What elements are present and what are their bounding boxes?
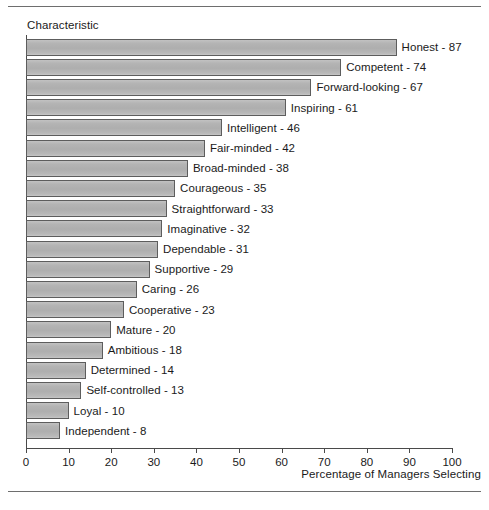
bar xyxy=(26,79,311,96)
bar xyxy=(26,422,60,439)
bar xyxy=(26,39,397,56)
bar xyxy=(26,261,150,278)
bar-row: Mature - 20 xyxy=(26,321,452,338)
bar-row: Intelligent - 46 xyxy=(26,119,452,136)
bar-row: Imaginative - 32 xyxy=(26,220,452,237)
bar-row: Ambitious - 18 xyxy=(26,342,452,359)
x-axis-tick xyxy=(196,448,197,453)
bar-value-label: Courageous - 35 xyxy=(180,182,266,194)
x-axis-tick-label: 80 xyxy=(360,456,373,468)
bar-row: Caring - 26 xyxy=(26,281,452,298)
bar xyxy=(26,99,286,116)
x-axis-tick-label: 100 xyxy=(442,456,461,468)
bar-value-label: Honest - 87 xyxy=(402,41,462,53)
bar xyxy=(26,220,162,237)
x-axis-tick xyxy=(324,448,325,453)
bar xyxy=(26,59,341,76)
x-axis-tick xyxy=(69,448,70,453)
bar xyxy=(26,241,158,258)
bar-value-label: Supportive - 29 xyxy=(155,263,234,275)
bar-row: Determined - 14 xyxy=(26,362,452,379)
bar xyxy=(26,160,188,177)
bar-chart-plot-area: Honest - 87Competent - 74Forward-looking… xyxy=(26,35,452,448)
bar-row: Competent - 74 xyxy=(26,59,452,76)
bar xyxy=(26,382,81,399)
bar-row: Cooperative - 23 xyxy=(26,301,452,318)
bar xyxy=(26,281,137,298)
bar-row: Dependable - 31 xyxy=(26,241,452,258)
x-axis-tick xyxy=(282,448,283,453)
bar xyxy=(26,200,167,217)
bar-row: Straightforward - 33 xyxy=(26,200,452,217)
x-axis-tick xyxy=(452,448,453,453)
bar-row: Honest - 87 xyxy=(26,39,452,56)
bar-value-label: Intelligent - 46 xyxy=(227,122,300,134)
bar-value-label: Dependable - 31 xyxy=(163,243,249,255)
bar xyxy=(26,342,103,359)
bar-value-label: Independent - 8 xyxy=(65,425,146,437)
bar-row: Inspiring - 61 xyxy=(26,99,452,116)
cropped-caption-text xyxy=(10,497,480,508)
x-axis-tick-label: 30 xyxy=(147,456,160,468)
bar-value-label: Imaginative - 32 xyxy=(167,223,250,235)
x-axis-tick-label: 70 xyxy=(318,456,331,468)
bottom-horizontal-rule xyxy=(8,491,481,492)
bar xyxy=(26,362,86,379)
bar-value-label: Inspiring - 61 xyxy=(291,102,358,114)
top-horizontal-rule xyxy=(8,6,481,7)
bar-value-label: Mature - 20 xyxy=(116,324,175,336)
bar-row: Self-controlled - 13 xyxy=(26,382,452,399)
x-axis-tick-label: 40 xyxy=(190,456,203,468)
x-axis-tick-label: 60 xyxy=(275,456,288,468)
x-axis-tick-label: 50 xyxy=(233,456,246,468)
x-axis-tick-label: 90 xyxy=(403,456,416,468)
bar xyxy=(26,321,111,338)
bar-row: Supportive - 29 xyxy=(26,261,452,278)
x-axis-tick xyxy=(154,448,155,453)
bar-value-label: Forward-looking - 67 xyxy=(316,81,422,93)
bar-value-label: Broad-minded - 38 xyxy=(193,162,289,174)
x-axis-tick xyxy=(409,448,410,453)
x-axis-tick-label: 10 xyxy=(62,456,75,468)
bar-row: Courageous - 35 xyxy=(26,180,452,197)
bar-value-label: Loyal - 10 xyxy=(74,405,125,417)
bar-value-label: Fair-minded - 42 xyxy=(210,142,295,154)
bar xyxy=(26,180,175,197)
x-axis-tick-label: 0 xyxy=(23,456,29,468)
bar-value-label: Caring - 26 xyxy=(142,283,199,295)
bar-row: Broad-minded - 38 xyxy=(26,160,452,177)
bar-row: Independent - 8 xyxy=(26,422,452,439)
bar xyxy=(26,140,205,157)
x-axis-title: Percentage of Managers Selecting xyxy=(301,468,481,480)
bar-value-label: Straightforward - 33 xyxy=(172,203,274,215)
bar-row: Forward-looking - 67 xyxy=(26,79,452,96)
x-axis-tick xyxy=(26,448,27,453)
bar-row: Loyal - 10 xyxy=(26,402,452,419)
bar xyxy=(26,301,124,318)
bar-value-label: Determined - 14 xyxy=(91,364,174,376)
bar-value-label: Competent - 74 xyxy=(346,61,426,73)
x-axis-tick xyxy=(367,448,368,453)
bar-value-label: Ambitious - 18 xyxy=(108,344,182,356)
x-axis-tick xyxy=(239,448,240,453)
bar xyxy=(26,402,69,419)
bar-value-label: Cooperative - 23 xyxy=(129,304,215,316)
x-axis-tick-label: 20 xyxy=(105,456,118,468)
bar-row: Fair-minded - 42 xyxy=(26,140,452,157)
x-axis-tick xyxy=(111,448,112,453)
bar-value-label: Self-controlled - 13 xyxy=(86,384,184,396)
y-axis-title: Characteristic xyxy=(27,19,99,31)
bar xyxy=(26,119,222,136)
